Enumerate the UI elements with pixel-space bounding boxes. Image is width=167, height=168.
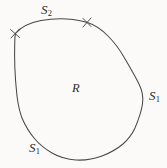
boundary-arc-label-s1-right: S1 <box>149 89 160 104</box>
boundary-arc-label-s1-bottom: S1 <box>29 141 40 156</box>
boundary-arc-label-s1-bottom-letter: S <box>29 140 36 155</box>
boundary-arc-label-s2-letter: S <box>41 2 48 17</box>
boundary-arc-label-s2: S2 <box>41 3 52 18</box>
region-diagram-svg <box>0 0 167 168</box>
region-label: R <box>72 82 80 95</box>
figure-container: S2 S1 S1 R <box>0 0 167 168</box>
boundary-arc-label-s1-bottom-subscript: 1 <box>36 146 40 156</box>
boundary-arc-label-s1-right-subscript: 1 <box>156 94 160 104</box>
boundary-arc-label-s1-right-letter: S <box>149 88 156 103</box>
boundary-divider-tick-right <box>83 18 91 27</box>
boundary-arc-label-s2-subscript: 2 <box>48 8 52 18</box>
region-label-letter: R <box>72 81 80 95</box>
